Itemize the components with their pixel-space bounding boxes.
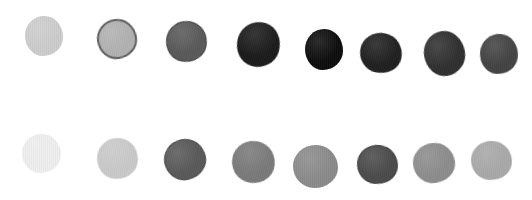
swatch-canvas [0, 0, 532, 200]
watercolor-dot [160, 135, 210, 184]
watercolor-dot [231, 17, 284, 72]
watercolor-dot [22, 134, 61, 173]
watercolor-dot [94, 135, 140, 181]
watercolor-dot [469, 139, 513, 181]
watercolor-dot [293, 145, 338, 188]
watercolor-dot [227, 136, 279, 187]
watercolor-dot [162, 17, 209, 64]
watercolor-dot [305, 29, 343, 70]
watercolor-dot [25, 16, 63, 56]
watercolor-dot [420, 27, 468, 78]
watercolor-dot [478, 32, 519, 75]
watercolor-dot [94, 16, 139, 61]
watercolor-dot [411, 141, 457, 185]
watercolor-dot [355, 142, 400, 185]
watercolor-dot [356, 29, 405, 77]
